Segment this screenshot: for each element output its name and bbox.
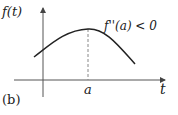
point-a-label: a: [84, 82, 92, 97]
panel-label: (b): [2, 92, 20, 107]
concave-down-curve: [34, 29, 135, 64]
concavity-diagram: f(t) f''(a) < 0 a t (b): [0, 0, 178, 115]
annotation-label: f''(a) < 0: [103, 19, 157, 33]
y-axis-label: f(t): [1, 4, 22, 19]
x-axis-label: t: [160, 81, 166, 97]
